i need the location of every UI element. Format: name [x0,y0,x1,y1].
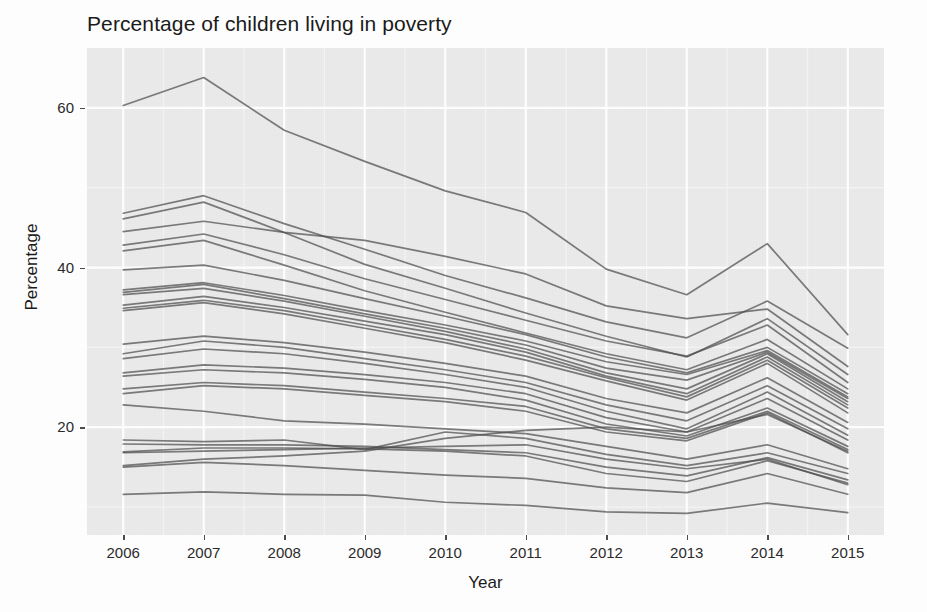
x-tick-label: 2011 [510,544,542,561]
x-tick-mark [606,535,608,540]
x-tick-label: 2006 [107,544,140,561]
plot-area [87,48,884,535]
x-tick-label: 2014 [751,544,784,561]
x-tick-label: 2010 [429,544,462,561]
x-tick-mark [848,535,850,540]
x-tick-label: 2015 [831,544,864,561]
x-tick-mark [687,535,689,540]
y-tick-mark [80,108,85,110]
x-tick-mark [284,535,286,540]
chart-title: Percentage of children living in poverty [87,12,452,36]
chart-figure: Percentage of children living in poverty… [0,0,927,612]
x-tick-mark [123,535,125,540]
y-tick-mark [80,268,85,270]
x-tick-mark [365,535,367,540]
plot-panel [87,48,884,535]
x-tick-label: 2009 [348,544,381,561]
x-tick-mark [526,535,528,540]
y-tick-label: 60 [0,99,74,116]
x-tick-mark [445,535,447,540]
x-tick-mark [767,535,769,540]
x-tick-label: 2013 [670,544,703,561]
x-axis-title: Year [87,573,884,593]
y-axis-title: Percentage [22,207,42,327]
y-tick-mark [80,427,85,429]
x-tick-mark [204,535,206,540]
y-tick-label: 20 [0,418,74,435]
x-tick-label: 2008 [268,544,301,561]
x-tick-label: 2007 [187,544,220,561]
x-tick-label: 2012 [590,544,623,561]
